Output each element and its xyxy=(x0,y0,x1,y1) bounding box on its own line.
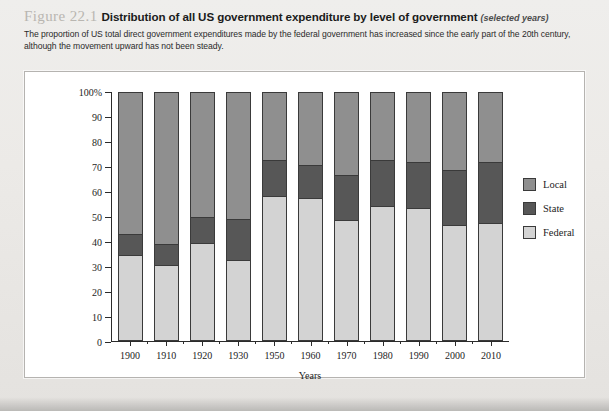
bar-segment-federal[interactable] xyxy=(407,209,430,340)
bar-segment-local[interactable] xyxy=(479,93,502,162)
bar-segment-local[interactable] xyxy=(407,93,430,162)
x-tick-minor xyxy=(147,341,148,344)
bar-segment-state[interactable] xyxy=(443,170,466,227)
bar-segment-federal[interactable] xyxy=(155,266,178,340)
x-tick-label: 1990 xyxy=(409,350,429,361)
x-tick-label: 1910 xyxy=(156,350,176,361)
stacked-bar[interactable] xyxy=(442,92,467,341)
stacked-bar[interactable] xyxy=(478,92,503,341)
stacked-bar[interactable] xyxy=(298,92,323,341)
legend-swatch-state xyxy=(523,202,536,215)
x-tick-mark xyxy=(130,341,131,346)
legend-item[interactable]: Local xyxy=(523,178,575,191)
plot-area: Percent of US government expenditure 100… xyxy=(111,92,509,342)
stacked-bar[interactable] xyxy=(262,92,287,341)
bar-segment-state[interactable] xyxy=(227,219,250,261)
x-tick-minor xyxy=(328,341,329,344)
bar-segment-local[interactable] xyxy=(443,93,466,170)
bar-segment-local[interactable] xyxy=(191,93,214,217)
legend-label: State xyxy=(543,203,564,214)
y-tick-mark xyxy=(105,342,111,343)
stacked-bar[interactable] xyxy=(190,92,215,341)
x-tick-label: 2000 xyxy=(445,350,465,361)
legend-label: Federal xyxy=(543,227,575,238)
figure-header: Figure 22.1Distribution of all US govern… xyxy=(24,8,591,53)
bar-segment-state[interactable] xyxy=(407,162,430,209)
x-tick-label: 1950 xyxy=(264,350,284,361)
y-tick-mark xyxy=(105,92,111,93)
bar-segment-state[interactable] xyxy=(479,162,502,224)
bar-segment-federal[interactable] xyxy=(479,224,502,340)
bar-segment-state[interactable] xyxy=(299,165,322,200)
y-tick-label: 50 xyxy=(92,212,102,223)
x-tick-mark xyxy=(238,341,239,346)
bar-segment-local[interactable] xyxy=(263,93,286,160)
x-axis-title: Years xyxy=(111,370,509,381)
x-tick-minor xyxy=(472,341,473,344)
bar-segment-state[interactable] xyxy=(155,244,178,266)
x-tick-mark xyxy=(383,341,384,346)
page-background: Figure 22.1Distribution of all US govern… xyxy=(0,0,609,411)
bar-segment-federal[interactable] xyxy=(191,244,214,340)
bar-segment-federal[interactable] xyxy=(299,199,322,340)
x-tick-mark xyxy=(202,341,203,346)
y-tick-label: 10 xyxy=(92,312,102,323)
bar-category: 1960 xyxy=(292,92,328,341)
figure-number: Figure 22.1 xyxy=(24,8,98,24)
bar-segment-federal[interactable] xyxy=(443,226,466,340)
bar-segment-federal[interactable] xyxy=(227,261,250,340)
x-tick-minor xyxy=(436,341,437,344)
bar-category: 1920 xyxy=(184,92,220,341)
stacked-bar[interactable] xyxy=(406,92,431,341)
stacked-bar[interactable] xyxy=(370,92,395,341)
bar-segment-local[interactable] xyxy=(119,93,142,234)
figure-subtitle: The proportion of US total direct govern… xyxy=(24,28,591,53)
x-tick-minor xyxy=(183,341,184,344)
y-tick-mark xyxy=(105,292,111,293)
x-tick-mark xyxy=(491,341,492,346)
bar-category: 1980 xyxy=(365,92,401,341)
bar-category: 2000 xyxy=(437,92,473,341)
figure-title-line: Figure 22.1Distribution of all US govern… xyxy=(24,8,591,25)
bar-category: 1900 xyxy=(112,92,148,341)
y-tick-label: 0 xyxy=(97,337,102,348)
bar-segment-federal[interactable] xyxy=(263,197,286,340)
bar-segment-local[interactable] xyxy=(299,93,322,165)
bar-segment-state[interactable] xyxy=(371,160,394,207)
stacked-bar[interactable] xyxy=(334,92,359,341)
bar-segment-federal[interactable] xyxy=(119,256,142,340)
bar-segment-state[interactable] xyxy=(335,175,358,222)
y-tick-mark xyxy=(105,192,111,193)
bar-segment-local[interactable] xyxy=(371,93,394,160)
legend-swatch-local xyxy=(523,178,536,191)
bar-segment-local[interactable] xyxy=(335,93,358,175)
bar-segment-state[interactable] xyxy=(191,217,214,244)
x-tick-minor xyxy=(219,341,220,344)
bar-segment-state[interactable] xyxy=(263,160,286,197)
stacked-bar[interactable] xyxy=(154,92,179,341)
y-tick-mark xyxy=(105,167,111,168)
bar-segment-federal[interactable] xyxy=(371,207,394,340)
legend-item[interactable]: Federal xyxy=(523,226,575,239)
y-tick-mark xyxy=(105,142,111,143)
legend-swatch-federal xyxy=(523,226,536,239)
y-tick-mark xyxy=(105,317,111,318)
figure-title: Distribution of all US government expend… xyxy=(102,10,478,23)
legend-item[interactable]: State xyxy=(523,202,575,215)
y-tick-label: 20 xyxy=(92,287,102,298)
stacked-bar[interactable] xyxy=(118,92,143,341)
bar-segment-state[interactable] xyxy=(119,234,142,256)
x-tick-label: 1900 xyxy=(120,350,140,361)
x-tick-label: 1960 xyxy=(301,350,321,361)
bar-category: 1970 xyxy=(329,92,365,341)
stacked-bar[interactable] xyxy=(226,92,251,341)
y-tick-mark xyxy=(105,117,111,118)
y-tick-label: 70 xyxy=(92,162,102,173)
bar-segment-local[interactable] xyxy=(155,93,178,244)
x-tick-label: 1980 xyxy=(373,350,393,361)
bar-segment-local[interactable] xyxy=(227,93,250,219)
x-tick-minor xyxy=(291,341,292,344)
figure-qualifier: (selected years) xyxy=(480,13,548,23)
bar-segment-federal[interactable] xyxy=(335,221,358,340)
x-tick-mark xyxy=(166,341,167,346)
